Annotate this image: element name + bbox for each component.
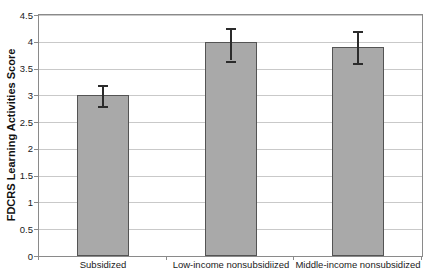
y-tick-label: 4 — [0, 36, 33, 47]
error-bar-cap — [353, 63, 363, 65]
y-tick-label: 1 — [0, 197, 33, 208]
y-tick-mark — [34, 69, 38, 70]
gridline — [39, 15, 422, 16]
y-tick-mark — [34, 122, 38, 123]
y-axis-title: FDCRS Learning Activities Score — [5, 49, 17, 222]
y-tick-label: 2 — [0, 143, 33, 154]
y-tick-mark — [34, 149, 38, 150]
x-axis-category-label: Middle-income nonsubsidized — [283, 259, 433, 271]
bar-chart-figure: FDCRS Learning Activities Score 00.511.5… — [0, 0, 439, 275]
y-tick-label: 3 — [0, 90, 33, 101]
y-tick-mark — [34, 15, 38, 16]
y-tick-mark — [34, 42, 38, 43]
bar — [205, 42, 257, 256]
y-tick-label: 4.5 — [0, 10, 33, 21]
y-tick-label: 0.5 — [0, 224, 33, 235]
error-bar-line — [102, 85, 104, 106]
y-tick-label: 3.5 — [0, 63, 33, 74]
error-bar-cap — [353, 31, 363, 33]
error-bar-cap — [98, 106, 108, 108]
y-tick-mark — [34, 229, 38, 230]
error-bar-line — [230, 28, 232, 60]
error-bar-cap — [226, 61, 236, 63]
error-bar-cap — [98, 85, 108, 87]
y-tick-label: 1.5 — [0, 170, 33, 181]
error-bar-cap — [226, 28, 236, 30]
bar — [332, 47, 384, 256]
y-tick-label: 2.5 — [0, 117, 33, 128]
y-tick-mark — [34, 176, 38, 177]
y-tick-mark — [34, 95, 38, 96]
error-bar-line — [357, 31, 359, 63]
y-tick-mark — [34, 202, 38, 203]
bar — [77, 95, 129, 256]
plot-area — [38, 14, 423, 257]
